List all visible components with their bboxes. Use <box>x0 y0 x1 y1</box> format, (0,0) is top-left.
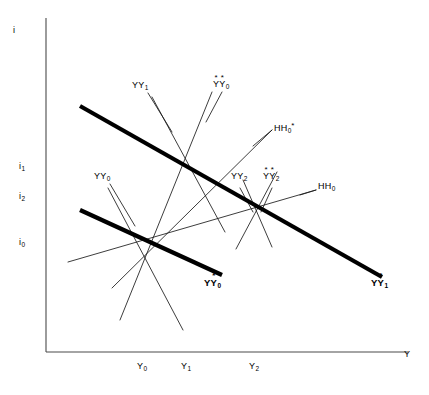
y-tick-i1-sub: 1 <box>22 165 26 172</box>
x-tick-y2-base: Y <box>249 361 255 371</box>
curve-label-hh0: HH0 <box>318 182 335 191</box>
x-tick-y0-base: Y <box>137 361 143 371</box>
x-tick-y1: Y1 <box>181 362 191 371</box>
curve-hh0 <box>68 190 316 262</box>
curve-hh-star-0 <box>112 130 272 288</box>
curve-label-bold-yy-star-0-sub: 0 <box>217 282 221 289</box>
curve-label-yy0-base: YY <box>94 171 106 181</box>
curve-label-yy2: YY2 <box>231 172 247 181</box>
x-tick-y1-base: Y <box>181 361 187 371</box>
y-axis-title: i <box>13 26 15 35</box>
curve-label-yy-star-star-0-y2: *Y <box>219 80 225 89</box>
y-tick-i0-base: i <box>19 237 21 247</box>
star-glyph: * <box>212 272 215 280</box>
curve-label-yy-star-star-0-sub: 0 <box>226 83 230 90</box>
curve-label-bold-yy-star-1: YYY*Y1 <box>371 278 388 288</box>
curve-label-hh0-sub: 0 <box>332 185 336 192</box>
x-tick-y0: Y0 <box>137 362 147 371</box>
curve-label-yy1-base: YY <box>132 80 144 90</box>
y-tick-i1-base: i <box>19 161 21 171</box>
curve-label-yy1-sub: 1 <box>145 84 149 91</box>
x-tick-y2: Y2 <box>249 362 259 371</box>
curve-label-yy1: YY1 <box>132 81 148 90</box>
curve-label-yy2-base: YY <box>231 171 243 181</box>
curve-label-hh-star-0-base: HH <box>274 123 287 133</box>
leader-hh-star-0 <box>253 130 272 146</box>
bold-curves-group <box>80 106 382 277</box>
y-tick-i0-sub: 0 <box>22 241 26 248</box>
curve-label-bold-yy-star-0: YYY*Y0 <box>204 278 221 288</box>
star-glyph: * <box>379 272 382 280</box>
curve-label-yy-star-star-0: *Y*Y0 <box>213 80 229 89</box>
star-glyph: * <box>271 166 274 174</box>
economics-diagram: i Y i1 i2 i0 Y0 Y1 Y2 YY1 YY0 *Y*Y0 HH0*… <box>0 0 429 395</box>
y-tick-i0: i0 <box>19 238 25 247</box>
curve-yy-star-star-2 <box>236 172 277 249</box>
y-tick-i2-sub: 2 <box>22 195 26 202</box>
leader-yy0 <box>110 184 135 226</box>
x-tick-y0-sub: 0 <box>144 365 148 372</box>
curve-label-hh-star-0: HH0* <box>274 124 295 133</box>
curve-label-yy2-sub: 2 <box>244 175 248 182</box>
x-tick-y1-sub: 1 <box>188 365 192 372</box>
diagram-canvas <box>0 0 429 395</box>
axes-group <box>46 18 408 352</box>
curve-yy0 <box>108 188 183 330</box>
curve-yy-star-star-0 <box>120 92 212 320</box>
y-tick-i2-base: i <box>19 191 21 201</box>
star-glyph: * <box>264 166 267 174</box>
leader-yy1 <box>148 93 172 132</box>
x-tick-y2-sub: 2 <box>256 365 260 372</box>
y-tick-i2: i2 <box>19 192 25 201</box>
curve-label-hh0-base: HH <box>318 181 331 191</box>
curve-bold-yy-star-1 <box>80 106 382 277</box>
curve-label-bold-yy-star-1-sub: 1 <box>384 282 388 289</box>
curve-label-yy0-sub: 0 <box>107 175 111 182</box>
y-tick-i1: i1 <box>19 162 25 171</box>
star-glyph: * <box>221 74 224 82</box>
curve-label-yy-star-star-2: *Y*Y2 <box>263 172 279 181</box>
curve-label-hh-star-0-star: * <box>291 121 294 130</box>
curve-label-yy0: YY0 <box>94 172 110 181</box>
curve-bold-yy-star-0 <box>80 210 222 275</box>
leader-hh0 <box>300 190 316 195</box>
curve-label-yy-star-star-2-y2: *Y <box>269 172 275 181</box>
leader-yy-star-star-0 <box>206 92 222 122</box>
x-axis-title: Y <box>404 350 410 359</box>
star-glyph: * <box>214 74 217 82</box>
curve-label-yy-star-star-2-sub: 2 <box>276 175 280 182</box>
